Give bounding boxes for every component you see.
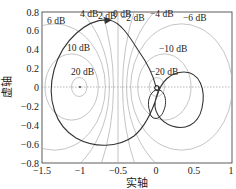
y-tick: −0.2 xyxy=(21,101,39,112)
label-neg20db: −20 dB xyxy=(150,67,178,77)
critical-point xyxy=(79,86,81,88)
y-tick: 0.8 xyxy=(27,7,40,18)
nyquist-m-circle-chart: 6 dB 4 dB 2 dB 0 dB −2 dB −4 dB −6 dB 10… xyxy=(0,0,236,189)
label-4db: 4 dB xyxy=(80,9,98,19)
x-tick: 0.5 xyxy=(188,165,201,176)
y-tick: −0.4 xyxy=(21,120,39,131)
x-tick: −1.5 xyxy=(33,165,51,176)
label-neg10db: −10 dB xyxy=(159,44,187,54)
label-neg4db: −4 dB xyxy=(150,9,174,19)
y-axis-label: 虚轴 xyxy=(0,76,14,98)
y-tick: −0.6 xyxy=(21,139,39,150)
label-neg6db: −6 dB xyxy=(183,13,207,23)
x-tick: −1 xyxy=(75,165,86,176)
x-tick: −0.5 xyxy=(109,165,127,176)
label-neg2db: −2 dB xyxy=(121,13,145,23)
label-20db: 20 dB xyxy=(71,67,94,77)
x-tick: 0 xyxy=(154,165,159,176)
x-axis-label: 实轴 xyxy=(126,176,148,189)
y-axis: 0.8 0.6 0.4 0.2 0 −0.2 −0.4 −0.6 −0.8 虚轴 xyxy=(0,7,39,169)
x-tick: 1 xyxy=(229,165,234,176)
y-tick: 0 xyxy=(34,82,39,93)
x-axis: −1.5 −1 −0.5 0 0.5 1 实轴 xyxy=(33,165,234,189)
label-10db: 10 dB xyxy=(67,43,90,53)
y-tick: 0.4 xyxy=(27,44,40,55)
y-tick: 0.6 xyxy=(27,25,40,36)
y-tick: 0.2 xyxy=(27,63,40,74)
plot-area xyxy=(42,12,232,163)
label-6db: 6 dB xyxy=(47,16,65,26)
